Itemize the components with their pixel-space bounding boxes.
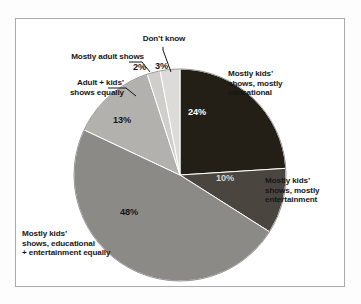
slice-category-label-dont-know: Don’t know [124, 34, 204, 44]
slice-value-label-mostly-adult-shows: 2% [133, 62, 146, 72]
slice-category-label-mostly-educational: Mostly kids’ shows, mostly educational [228, 69, 320, 98]
slice-value-label-dont-know: 3% [155, 61, 168, 71]
slice-value-label-mostly-educational: 24% [188, 107, 206, 117]
slice-value-label-adult-and-kids-equally: 13% [113, 115, 131, 125]
figure-canvas: 24% 10% 48% 13% 2% 3% Mostly kids’ shows… [0, 0, 361, 304]
slice-value-label-mostly-entertainment: 10% [216, 173, 234, 183]
slice-category-label-mostly-adult-shows: Mostly adult shows [40, 52, 144, 62]
slice-category-label-adult-and-kids-equally: Adult + kids’ shows equally [18, 78, 124, 97]
pie-chart-svg [0, 0, 361, 304]
slice-value-label-educational-and-entertainment-equally: 48% [120, 207, 138, 217]
slice-category-label-mostly-entertainment: Mostly kids’ shows, mostly entertainment [265, 176, 357, 205]
slice-category-label-educational-and-entertainment-equally: Mostly kids’ shows, educational + entert… [22, 229, 172, 258]
pie-chart-plot-area: 24% 10% 48% 13% 2% 3% Mostly kids’ shows… [0, 0, 361, 304]
